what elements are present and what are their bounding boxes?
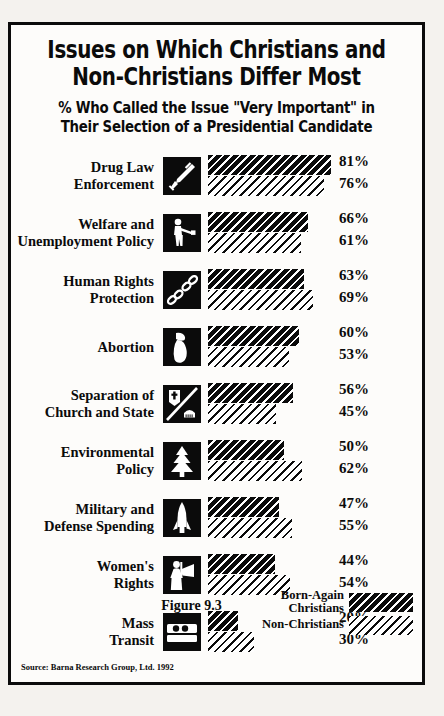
row-label-line-2: Rights [11,575,154,591]
bar-born-again [208,326,299,346]
legend-label-born-again-line-2: Christians [281,602,344,616]
row-label-line-1: Abortion [98,339,154,355]
bar-non-christians [208,404,276,424]
row-label-line-2: Unemployment Policy [11,233,154,249]
row-label-line-1: Separation of [71,387,154,403]
row-bars: 63%69% [208,268,422,312]
value-label-born-again: 81% [339,153,369,170]
value-label-non-christians: 45% [339,403,369,420]
bar-non-christians [208,233,301,253]
row-label: Military andDefense Spending [11,501,163,533]
bar-non-christians [208,347,289,367]
row-label-line-2: Enforcement [11,176,154,192]
row-label: Welfare andUnemployment Policy [11,216,163,248]
row-label-line-2: Church and State [11,404,154,420]
bar-born-again [208,383,293,403]
value-label-non-christians: 69% [339,289,369,306]
page-title-line-2: Non-Christians Differ Most [27,64,405,91]
syringe-icon [163,157,201,195]
legend-item-born-again: Born-Again Christians [233,592,413,612]
bar-non-christians [208,461,302,481]
row-label: Human RightsProtection [11,273,163,305]
bar-born-again [208,440,284,460]
title-block: Issues on Which Christians and Non-Chris… [11,37,422,91]
chart-legend: Born-Again Christians Non-Christians [233,592,413,638]
value-label-non-christians: 76% [339,175,369,192]
bar-born-again [208,212,308,232]
bar-born-again [208,269,304,289]
poster-frame: Issues on Which Christians and Non-Chris… [8,22,425,685]
row-label: Abortion [11,339,163,355]
chart-row: Human RightsProtection63%69% [11,263,422,317]
person-handout-icon [163,214,201,252]
row-label-line-1: Military and [75,501,154,517]
chart-row: Drug LawEnforcement81%76% [11,149,422,203]
pregnant-woman-icon [163,328,201,366]
row-bars: 50%62% [208,439,422,483]
page-subtitle-line-1: % Who Called the Issue "Very Important" … [32,98,402,117]
row-label-line-1: Women's [97,558,154,574]
page-subtitle-line-2: Their Selection of a Presidential Candid… [32,117,402,136]
value-label-born-again: 50% [339,438,369,455]
value-label-born-again: 60% [339,324,369,341]
bar-born-again [208,497,279,517]
row-label-line-1: Human Rights [63,273,154,289]
bar-born-again [208,155,331,175]
row-label: EnvironmentalPolicy [11,444,163,476]
value-label-born-again: 56% [339,381,369,398]
row-label-line-2: Defense Spending [11,518,154,534]
value-label-born-again: 63% [339,267,369,284]
row-label-line-1: Welfare and [78,216,154,232]
row-bars: 66%61% [208,211,422,255]
legend-label-born-again-line-1: Born-Again [281,588,344,602]
row-label-line-2: Protection [11,290,154,306]
value-label-born-again: 47% [339,495,369,512]
page-title-line-1: Issues on Which Christians and [27,37,405,64]
legend-swatch-non-christians [349,616,413,635]
legend-label-born-again: Born-Again Christians [281,589,349,616]
value-label-non-christians: 61% [339,232,369,249]
legend-label-non-christians-line-1: Non-Christians [262,617,344,631]
bar-non-christians [208,518,292,538]
value-label-born-again: 66% [339,210,369,227]
chart-row: Welfare andUnemployment Policy66%61% [11,206,422,260]
subtitle-block: % Who Called the Issue "Very Important" … [11,98,422,137]
row-label: Separation ofChurch and State [11,387,163,419]
row-bars: 81%76% [208,154,422,198]
bar-born-again [208,554,275,574]
church-state-icon [163,385,201,423]
row-bars: 47%55% [208,496,422,540]
row-label-line-2: Policy [11,461,154,477]
broken-chain-icon [163,271,201,309]
value-label-born-again: 44% [339,552,369,569]
chart-row: Military andDefense Spending47%55% [11,491,422,545]
chart-row: Separation ofChurch and State56%45% [11,377,422,431]
row-bars: 56%45% [208,382,422,426]
legend-swatch-born-again [349,593,413,612]
value-label-non-christians: 53% [339,346,369,363]
bar-non-christians [208,176,324,196]
source-note: Source: Barna Research Group, Ltd. 1992 [21,662,174,672]
pine-tree-icon [163,442,201,480]
chart-row: EnvironmentalPolicy50%62% [11,434,422,488]
woman-flag-icon [163,556,201,594]
row-label-line-1: Drug Law [91,159,154,175]
row-label: Women'sRights [11,558,163,590]
legend-item-non-christians: Non-Christians [233,615,413,635]
chart-row: Abortion60%53% [11,320,422,374]
legend-label-non-christians: Non-Christians [262,618,349,632]
rocket-icon [163,499,201,537]
value-label-non-christians: 55% [339,517,369,534]
row-bars: 60%53% [208,325,422,369]
chart-rows: Drug LawEnforcement81%76%Welfare andUnem… [11,149,422,659]
chart-footer: Figure 9.3 Born-Again Christians Non-Chr… [11,590,422,682]
value-label-non-christians: 62% [339,460,369,477]
row-label: Drug LawEnforcement [11,159,163,191]
row-label-line-1: Environmental [61,444,154,460]
bar-non-christians [208,290,313,310]
